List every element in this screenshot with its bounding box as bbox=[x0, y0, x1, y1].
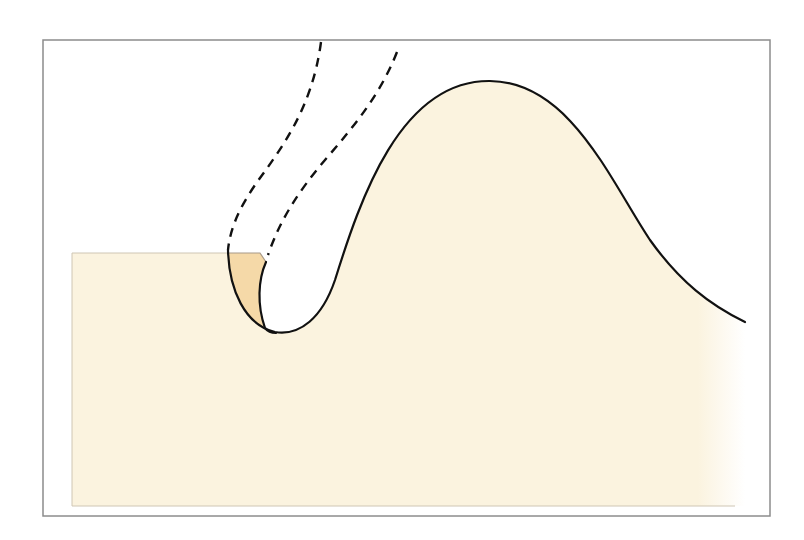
diagram-canvas bbox=[0, 0, 804, 540]
